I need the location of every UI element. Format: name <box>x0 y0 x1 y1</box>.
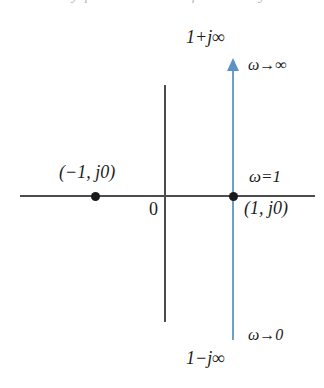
origin-label: 0 <box>149 200 158 218</box>
clipped-header-text: the Nyquist contour for the system <box>0 0 324 9</box>
contour-bottom-frequency-label: ω→0 <box>248 327 283 343</box>
contour-top-frequency-label: ω→∞ <box>248 57 287 73</box>
contour-bottom-endpoint-label: 1−j∞ <box>186 349 225 367</box>
nyquist-contour-figure: the Nyquist contour for the system 1+j∞ … <box>0 0 324 388</box>
clipped-header-text-label: the Nyquist contour for the system <box>30 0 303 3</box>
point-minus-one-label: (−1, j0) <box>59 163 115 181</box>
nyquist-path-arrow-icon <box>227 58 239 71</box>
contour-top-endpoint-label: 1+j∞ <box>186 28 225 46</box>
imaginary-axis <box>164 85 166 322</box>
point-plus-one-label: (1, j0) <box>244 199 288 217</box>
nyquist-path-line <box>232 66 234 340</box>
point-plus-one-marker <box>229 192 238 201</box>
crossing-frequency-label: ω=1 <box>249 168 281 185</box>
point-minus-one-marker <box>91 192 100 201</box>
real-axis <box>20 195 315 197</box>
